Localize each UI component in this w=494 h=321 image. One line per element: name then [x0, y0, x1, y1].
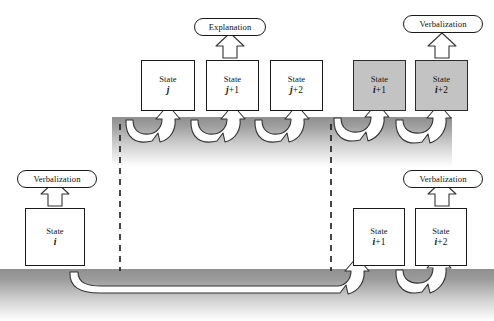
verbalization-pill-left-label: Verbalization: [33, 174, 80, 184]
state-box-i1-top[interactable]: State i+1: [353, 60, 406, 111]
state-box-j-word: State: [159, 74, 177, 84]
state-box-i2-bottom[interactable]: State i+2: [415, 208, 467, 266]
verbalization-pill-left[interactable]: Verbalization: [17, 170, 97, 188]
state-box-i1-bottom[interactable]: State i+1: [353, 208, 405, 266]
state-box-i1-top-word: State: [371, 74, 389, 84]
state-box-i1-bottom-index: i+1: [372, 237, 385, 248]
explanation-pill-label: Explanation: [209, 22, 252, 32]
state-box-j[interactable]: State j: [141, 60, 195, 111]
state-box-j2-index: j+2: [290, 85, 303, 96]
verbalization-pill-bottom-right-label: Verbalization: [419, 174, 466, 184]
state-box-j2[interactable]: State j+2: [270, 60, 323, 111]
output-arrow-to-explanation: [216, 33, 244, 58]
state-box-i2-top-word: State: [433, 74, 451, 84]
state-box-i1-bottom-word: State: [370, 226, 388, 236]
state-box-i2-top[interactable]: State i+2: [415, 60, 468, 111]
state-box-i2-bottom-word: State: [432, 226, 450, 236]
explanation-pill[interactable]: Explanation: [194, 18, 266, 36]
state-box-i[interactable]: State i: [25, 208, 85, 266]
state-box-i2-bottom-index: i+2: [434, 237, 447, 248]
state-box-i1-top-index: i+1: [373, 85, 386, 96]
verbalization-pill-top-right-label: Verbalization: [419, 19, 466, 29]
state-box-j1[interactable]: State j+1: [206, 60, 259, 111]
state-box-j-index: j: [167, 85, 170, 96]
state-box-i2-top-index: i+2: [435, 85, 448, 96]
diagram-graphics-layer: [0, 0, 494, 321]
verbalization-pill-bottom-right[interactable]: Verbalization: [403, 170, 483, 188]
state-box-j1-index: j+1: [226, 85, 239, 96]
verbalization-pill-top-right[interactable]: Verbalization: [403, 15, 483, 33]
diagram-canvas: Explanation Verbalization Verbalization …: [0, 0, 494, 321]
state-box-i-word: State: [46, 226, 64, 236]
state-box-j1-word: State: [224, 74, 242, 84]
output-arrow-to-verbalization-top-right: [428, 33, 456, 58]
state-box-j2-word: State: [288, 74, 306, 84]
state-box-i-index: i: [54, 237, 57, 248]
